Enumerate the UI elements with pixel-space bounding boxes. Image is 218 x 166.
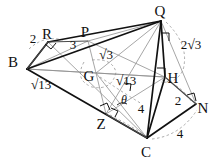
measure-BR-length: 2	[30, 32, 37, 45]
vertex-label-R: R	[42, 27, 52, 42]
line-P-Q	[88, 21, 161, 41]
line-Q-Z	[106, 21, 161, 114]
radicand-QH: 3	[195, 37, 202, 52]
measure-RP-length: 3	[70, 38, 77, 51]
measure-BC-length: √13	[31, 78, 52, 92]
vertex-label-B: B	[8, 55, 18, 70]
vertex-label-H: H	[168, 71, 179, 86]
radical-sign: √	[31, 77, 39, 92]
measure-GC-length: √13	[116, 74, 137, 88]
vertex-label-P: P	[81, 25, 89, 40]
edge-R-Q	[48, 21, 161, 42]
measure-angle-theta: θ	[121, 94, 127, 106]
radicand-PG: 3	[107, 47, 114, 62]
vertex-label-C: C	[141, 145, 151, 160]
radicand-GC: 13	[123, 73, 136, 88]
measure-CN-length: 4	[177, 127, 184, 140]
radicand-BC: 13	[38, 77, 51, 92]
arc-C-N	[152, 110, 197, 139]
arc-Z-C	[110, 115, 146, 136]
vertex-label-N: N	[198, 101, 209, 116]
vertex-label-Z: Z	[96, 117, 105, 132]
measure-ZC-length: 4	[138, 102, 145, 115]
vertex-label-Q: Q	[155, 4, 166, 19]
radical-sign: √	[99, 47, 107, 62]
measure-QH-length: 2√3	[181, 38, 202, 52]
measure-HN-length: 2	[175, 94, 182, 107]
edge-Q-C	[147, 21, 161, 138]
geometry-figure: B R P Q G H N Z C 2 3 √3 2√3 √13 √13 θ 4…	[0, 0, 218, 166]
measure-PG-length: √3	[99, 48, 113, 62]
vertex-label-G: G	[84, 69, 95, 84]
radical-sign: √	[116, 73, 124, 88]
